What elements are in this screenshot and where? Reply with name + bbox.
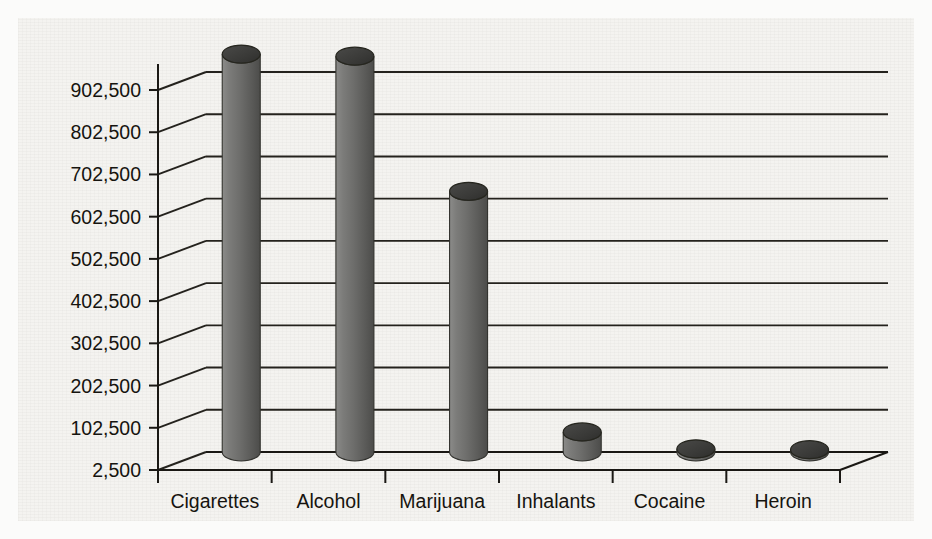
x-tick-label: Heroin <box>754 490 811 512</box>
bar-top-cap <box>677 440 715 458</box>
bar-top-cap <box>563 423 601 441</box>
bar-top-cap <box>336 47 374 65</box>
chart-page: 2,500102,500202,500302,500402,500502,500… <box>0 0 932 539</box>
y-tick-label: 2,500 <box>92 459 141 481</box>
x-tick-label: Marijuana <box>399 490 485 512</box>
x-tick-labels-group: CigarettesAlcoholMarijuanaInhalantsCocai… <box>170 490 811 512</box>
bar-body <box>450 191 488 461</box>
bar-top-cap <box>791 441 829 459</box>
axis-depth-connector <box>158 72 206 90</box>
bar-cylinder <box>336 47 374 461</box>
y-tick-label: 102,500 <box>71 417 142 439</box>
axis-depth-connector <box>158 156 206 174</box>
axis-depth-connector <box>158 199 206 217</box>
y-tick-label: 402,500 <box>71 290 142 312</box>
bars-group <box>222 45 828 461</box>
bar-cylinder <box>677 440 715 461</box>
y-tick-label: 702,500 <box>71 163 142 185</box>
y-axis-group <box>149 64 158 470</box>
bar-cylinder <box>563 423 601 461</box>
bar-top-cap <box>450 182 488 200</box>
bar-top-cap <box>222 45 260 63</box>
y-tick-label: 802,500 <box>71 121 142 143</box>
floor-right-edge <box>840 452 888 470</box>
axis-depth-connector <box>158 283 206 301</box>
y-tick-label: 902,500 <box>71 79 142 101</box>
bar-cylinder <box>450 182 488 461</box>
axis-depth-connector <box>158 325 206 343</box>
axis-depth-connector <box>158 241 206 259</box>
y-tick-label: 602,500 <box>71 206 142 228</box>
x-axis-group <box>158 470 840 483</box>
bar-body <box>336 56 374 461</box>
y-tick-label: 502,500 <box>71 248 142 270</box>
chart-floor-group <box>206 452 888 470</box>
axis-depth-connector <box>158 368 206 386</box>
x-tick-label: Cigarettes <box>170 490 259 512</box>
axis-depth-connector <box>158 410 206 428</box>
y-tick-labels-group: 2,500102,500202,500302,500402,500502,500… <box>71 79 142 481</box>
bar-body <box>222 54 260 461</box>
axis-depth-connector <box>158 452 206 470</box>
chart-svg: 2,500102,500202,500302,500402,500502,500… <box>0 0 932 539</box>
x-tick-label: Alcohol <box>297 490 361 512</box>
x-tick-label: Cocaine <box>634 490 706 512</box>
y-tick-label: 302,500 <box>71 332 142 354</box>
gridlines-group <box>158 72 888 470</box>
y-tick-label: 202,500 <box>71 375 142 397</box>
x-tick-label: Inhalants <box>516 490 595 512</box>
bar-cylinder <box>222 45 260 461</box>
bar-cylinder <box>791 441 829 461</box>
bar-chart: 2,500102,500202,500302,500402,500502,500… <box>0 0 932 539</box>
axis-depth-connector <box>158 114 206 132</box>
